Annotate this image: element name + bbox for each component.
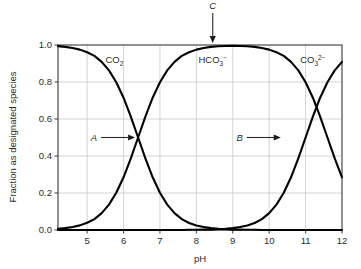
y-tick-label-2: 0.4	[39, 150, 52, 161]
species-label-hco3: HCO3−	[198, 54, 227, 67]
y-tick-label-3: 0.6	[39, 113, 52, 124]
x-tick-label-1: 6	[121, 235, 126, 246]
x-tick-label-3: 8	[194, 235, 199, 246]
annotation-label-C: C	[209, 0, 216, 11]
annotation-label-B: B	[236, 132, 243, 143]
x-tick-label-0: 5	[84, 235, 89, 246]
speciation-chart-svg: 567891011120.00.20.40.60.81.0 ABC CO2HCO…	[0, 0, 361, 269]
y-tick-label-4: 0.8	[39, 76, 52, 87]
y-tick-label-0: 0.0	[39, 224, 52, 235]
y-axis-title: Fraction as designated species	[7, 71, 18, 202]
x-axis-title: pH	[194, 253, 206, 264]
x-tick-label-4: 9	[230, 235, 235, 246]
annotation-label-A: A	[90, 132, 97, 143]
x-tick-label-2: 7	[157, 235, 162, 246]
x-tick-label-7: 12	[337, 235, 348, 246]
x-tick-label-5: 10	[264, 235, 275, 246]
chart-figure: 567891011120.00.20.40.60.81.0 ABC CO2HCO…	[0, 0, 361, 269]
y-tick-label-5: 1.0	[39, 39, 52, 50]
x-tick-label-6: 11	[301, 235, 311, 246]
y-tick-label-1: 0.2	[39, 187, 52, 198]
